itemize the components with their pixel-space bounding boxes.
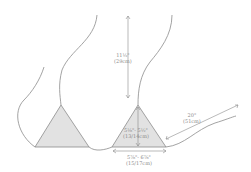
strap-length-cm: (29cm) — [114, 58, 132, 64]
bikini-diagram — [0, 0, 251, 172]
tie-length-cm: (51cm) — [183, 118, 201, 124]
body-outline-center — [60, 15, 97, 105]
right-cup — [112, 105, 166, 147]
body-outline-right — [138, 15, 172, 105]
cup-width-cm: (15/17cm) — [126, 160, 152, 166]
left-cup — [35, 105, 89, 147]
body-outline-left — [18, 67, 44, 147]
tie-length-arrow — [166, 105, 238, 139]
strap-length-label: 11½" (29cm) — [114, 52, 132, 64]
cup-width-label: 5⅞"- 6⅞" (15/17cm) — [126, 154, 152, 166]
tie-length-label: 20" (51cm) — [183, 112, 201, 124]
cup-height-label: 5⅛"- 5½" (13/14cm) — [123, 127, 149, 139]
center-band — [89, 147, 112, 150]
right-tie — [166, 116, 236, 147]
cup-height-cm: (13/14cm) — [123, 133, 149, 139]
